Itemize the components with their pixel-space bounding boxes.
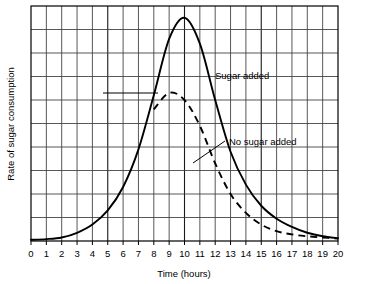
x-axis-tick-label: 2 xyxy=(59,248,64,259)
x-axis-tick-label: 14 xyxy=(241,248,252,259)
x-axis-tick-label: 18 xyxy=(302,248,313,259)
x-axis-tick-label: 5 xyxy=(105,248,110,259)
x-axis-tick-label: 0 xyxy=(28,248,33,259)
series-label-sugar-added: Sugar added xyxy=(215,70,269,81)
x-axis-tick-label: 17 xyxy=(287,248,298,259)
x-axis-title: Time (hours) xyxy=(157,268,211,279)
x-axis-tick-label: 8 xyxy=(151,248,156,259)
x-axis-tick-marks xyxy=(31,241,338,245)
x-axis-tick-label: 20 xyxy=(333,248,344,259)
x-axis-tick-label: 4 xyxy=(90,248,95,259)
sugar-consumption-line-chart: 01234567891011121314151617181920 Sugar a… xyxy=(0,0,367,284)
chart-figure: 01234567891011121314151617181920 Sugar a… xyxy=(0,0,367,284)
x-axis-tick-label: 3 xyxy=(74,248,79,259)
x-axis-tick-label: 16 xyxy=(271,248,282,259)
x-axis-tick-label: 13 xyxy=(225,248,236,259)
x-axis-tick-label: 1 xyxy=(44,248,49,259)
x-axis-tick-label: 15 xyxy=(256,248,267,259)
x-axis-tick-label: 11 xyxy=(195,248,205,259)
x-axis-tick-label: 19 xyxy=(317,248,328,259)
x-axis-tick-label: 12 xyxy=(210,248,221,259)
y-axis-title: Rate of sugar consumption xyxy=(5,67,16,181)
x-axis-tick-label: 6 xyxy=(120,248,125,259)
x-axis-tick-label: 9 xyxy=(167,248,172,259)
x-axis-tick-label: 7 xyxy=(136,248,141,259)
series-label-no-sugar-added: No sugar added xyxy=(229,136,297,147)
x-axis-tick-label: 10 xyxy=(179,248,190,259)
x-axis-tick-labels: 01234567891011121314151617181920 xyxy=(28,248,343,259)
